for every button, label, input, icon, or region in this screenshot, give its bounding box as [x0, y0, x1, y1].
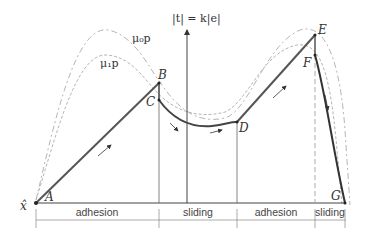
- point-E: [314, 34, 317, 37]
- axis-label: |t| = k|e|: [172, 12, 221, 26]
- region-label-sliding-2: sliding: [315, 206, 345, 218]
- arrow-D-E: [273, 86, 286, 98]
- region-label-sliding-1: sliding: [183, 206, 213, 218]
- arrow-A-B: [98, 145, 111, 156]
- label-C: C: [146, 95, 155, 109]
- label-E: E: [317, 23, 327, 37]
- point-G: [344, 202, 347, 205]
- point-A: [34, 201, 38, 205]
- path-A-B: [36, 83, 159, 203]
- label-G: G: [331, 189, 341, 203]
- path-D-E: [237, 35, 315, 122]
- region-label-adhesion-1: adhesion: [76, 206, 119, 218]
- point-C: [158, 99, 161, 102]
- arrow-C-D-2: [210, 130, 222, 133]
- arrow-C-D-1: [170, 123, 178, 131]
- path-F-G: [315, 55, 345, 203]
- stick-slip-diagram: A B C D E F G μ₀p μ₁p |t| = k|e| x̂ adhe…: [0, 0, 378, 237]
- point-F: [314, 54, 317, 57]
- mu1p-curve: [36, 45, 342, 205]
- region-label-adhesion-2: adhesion: [255, 206, 298, 218]
- label-B: B: [157, 68, 167, 82]
- label-D: D: [238, 121, 249, 135]
- label-mu1p: μ₁p: [100, 57, 119, 70]
- label-mu0p: μ₀p: [132, 32, 151, 45]
- origin-label: x̂: [20, 199, 27, 213]
- label-F: F: [302, 56, 312, 70]
- label-A: A: [44, 190, 54, 204]
